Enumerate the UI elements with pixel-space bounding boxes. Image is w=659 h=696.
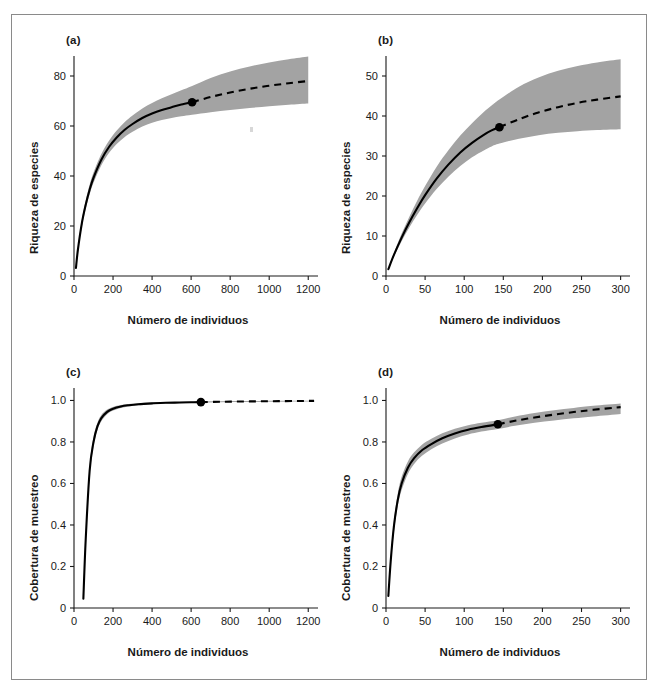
y-tick-label: 0.4 — [51, 519, 66, 531]
x-tick-label: 1200 — [296, 615, 320, 627]
y-tick-label: 0.6 — [51, 477, 66, 489]
y-tick-label: 0.8 — [363, 436, 378, 448]
panel-c: (c) Cobertura de muestreo Número de indi… — [18, 356, 328, 676]
panel-d: (d) Cobertura de muestreo Número de indi… — [330, 356, 640, 676]
x-tick-label: 800 — [221, 283, 239, 295]
x-tick-label: 200 — [533, 283, 551, 295]
panel-d-plot: 00.20.40.60.81.0050100150200250300 — [330, 356, 640, 676]
x-tick-label: 400 — [143, 615, 161, 627]
y-tick-label: 50 — [366, 70, 378, 82]
y-tick-label: 0 — [60, 270, 66, 282]
x-tick-label: 800 — [221, 615, 239, 627]
interpolation-curve — [388, 424, 497, 596]
y-tick-label: 0.2 — [363, 560, 378, 572]
x-tick-label: 300 — [611, 615, 629, 627]
x-tick-label: 50 — [419, 615, 431, 627]
y-tick-label: 0 — [372, 602, 378, 614]
reference-point-dot — [197, 398, 206, 407]
x-tick-label: 250 — [572, 615, 590, 627]
reference-point-dot — [495, 123, 504, 132]
y-tick-label: 80 — [54, 70, 66, 82]
y-tick-label: 10 — [366, 230, 378, 242]
x-tick-label: 250 — [572, 283, 590, 295]
x-tick-label: 100 — [455, 283, 473, 295]
y-tick-label: 20 — [366, 190, 378, 202]
confidence-band — [83, 401, 314, 600]
y-tick-label: 0 — [372, 270, 378, 282]
x-tick-label: 200 — [104, 615, 122, 627]
x-tick-label: 150 — [494, 283, 512, 295]
y-tick-label: 0.2 — [51, 560, 66, 572]
x-tick-label: 1000 — [257, 283, 281, 295]
x-tick-label: 150 — [494, 615, 512, 627]
confidence-band — [76, 57, 308, 269]
y-tick-label: 0.4 — [363, 519, 378, 531]
y-tick-label: 60 — [54, 120, 66, 132]
x-tick-label: 1200 — [296, 283, 320, 295]
panel-b: (b) Riqueza de especies Número de indivi… — [330, 24, 640, 344]
x-tick-label: 300 — [611, 283, 629, 295]
x-tick-label: 0 — [383, 615, 389, 627]
x-tick-label: 1000 — [257, 615, 281, 627]
interpolation-curve — [83, 402, 201, 599]
axis-lines — [74, 388, 318, 608]
scan-artifact-speck — [250, 127, 253, 132]
figure-root: (a) Riqueza de especies Número de indivi… — [0, 0, 659, 696]
confidence-band — [388, 404, 620, 598]
y-tick-label: 30 — [366, 150, 378, 162]
x-tick-label: 50 — [419, 283, 431, 295]
reference-point-dot — [494, 420, 503, 429]
panel-c-plot: 00.20.40.60.81.0020040060080010001200 — [18, 356, 328, 676]
y-tick-label: 1.0 — [51, 394, 66, 406]
x-tick-label: 200 — [104, 283, 122, 295]
y-tick-label: 1.0 — [363, 394, 378, 406]
y-tick-label: 0.6 — [363, 477, 378, 489]
panel-b-plot: 01020304050050100150200250300 — [330, 24, 640, 344]
y-tick-label: 0 — [60, 602, 66, 614]
y-tick-label: 20 — [54, 220, 66, 232]
x-tick-label: 0 — [71, 283, 77, 295]
y-tick-label: 40 — [366, 110, 378, 122]
y-tick-label: 0.8 — [51, 436, 66, 448]
panel-a: (a) Riqueza de especies Número de indivi… — [18, 24, 328, 344]
y-tick-label: 40 — [54, 170, 66, 182]
panel-a-plot: 020406080020040060080010001200 — [18, 24, 328, 344]
reference-point-dot — [188, 98, 197, 107]
x-tick-label: 100 — [455, 615, 473, 627]
x-tick-label: 200 — [533, 615, 551, 627]
x-tick-label: 0 — [71, 615, 77, 627]
confidence-band — [388, 59, 620, 269]
x-tick-label: 600 — [182, 283, 200, 295]
x-tick-label: 600 — [182, 615, 200, 627]
x-tick-label: 400 — [143, 283, 161, 295]
x-tick-label: 0 — [383, 283, 389, 295]
